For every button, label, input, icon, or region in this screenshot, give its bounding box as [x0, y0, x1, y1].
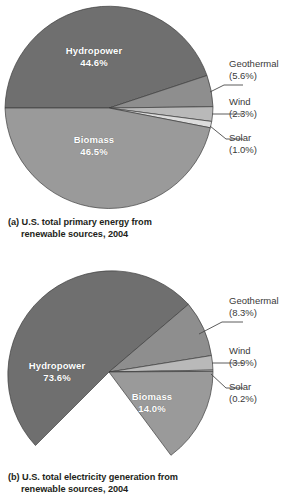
- pie-a-graphic: [0, 0, 293, 244]
- callout-solar-b: Solar (0.2%): [229, 381, 257, 404]
- callout-geothermal-a-name: Geothermal: [229, 58, 279, 70]
- callout-wind-b-name: Wind: [229, 345, 257, 357]
- leader-line-geothermal-a: [210, 85, 243, 92]
- caption-b-line2: renewable sources, 2004: [8, 484, 178, 496]
- callout-geothermal-a-pct: (5.6%): [229, 70, 279, 82]
- caption-a-line2: renewable sources, 2004: [8, 229, 152, 241]
- callout-wind-a-name: Wind: [229, 96, 257, 108]
- caption-a: (a) U.S. total primary energy from renew…: [8, 217, 152, 241]
- slice-biomass-a: [5, 108, 210, 208]
- pie-chart-b: Hydropower 73.6% Biomass 14.0% Geotherma…: [0, 244, 293, 487]
- caption-a-line1: (a) U.S. total primary energy from: [8, 217, 152, 227]
- callout-solar-a-name: Solar: [229, 132, 257, 144]
- callout-wind-b-pct: (3.9%): [229, 357, 257, 369]
- callout-geothermal-a: Geothermal (5.6%): [229, 58, 279, 81]
- callout-wind-a: Wind (2.3%): [229, 96, 257, 119]
- callout-geothermal-b-name: Geothermal: [229, 295, 279, 307]
- callout-geothermal-b: Geothermal (8.3%): [229, 295, 279, 318]
- callout-solar-b-name: Solar: [229, 381, 257, 393]
- caption-b-line1: (b) U.S. total electricity generation fr…: [8, 472, 178, 482]
- callout-solar-a: Solar (1.0%): [229, 132, 257, 155]
- callout-wind-a-pct: (2.3%): [229, 108, 257, 120]
- leader-line-geothermal-b: [199, 322, 243, 334]
- caption-b: (b) U.S. total electricity generation fr…: [8, 472, 178, 496]
- callout-solar-b-pct: (0.2%): [229, 393, 257, 405]
- callout-geothermal-b-pct: (8.3%): [229, 307, 279, 319]
- callout-solar-a-pct: (1.0%): [229, 144, 257, 156]
- callout-wind-b: Wind (3.9%): [229, 345, 257, 368]
- pie-chart-a: Hydropower 44.6% Biomass 46.5% Geotherma…: [0, 0, 293, 244]
- slice-biomass-b: [109, 371, 213, 455]
